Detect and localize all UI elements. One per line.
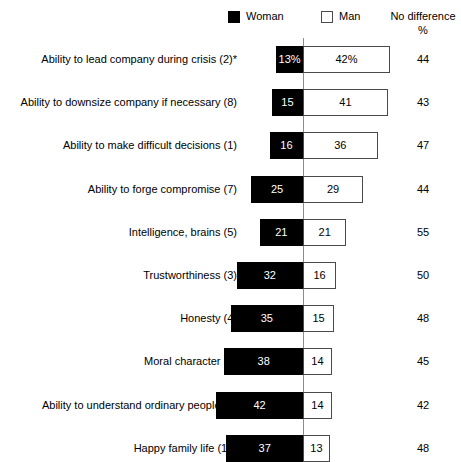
bar-value-woman: 21 bbox=[275, 226, 287, 239]
bar-value-woman: 37 bbox=[259, 442, 271, 455]
bar-value-man: 15 bbox=[312, 312, 324, 325]
bar-woman: 37 bbox=[226, 435, 303, 462]
bar-woman: 38 bbox=[224, 348, 303, 375]
no-difference-value: 55 bbox=[385, 219, 461, 246]
chart-row: Trustworthiness (3)321650 bbox=[0, 262, 461, 289]
no-difference-value: 42 bbox=[385, 392, 461, 419]
bar-woman: 15 bbox=[272, 89, 303, 116]
no-difference-value: 48 bbox=[385, 435, 461, 462]
bar-value-man: 36 bbox=[334, 139, 346, 152]
bar-value-woman: 42 bbox=[253, 399, 265, 412]
bar-woman: 42 bbox=[216, 392, 303, 419]
no-difference-value: 45 bbox=[385, 348, 461, 375]
no-difference-value: 44 bbox=[385, 176, 461, 203]
bar-man: 14 bbox=[303, 348, 332, 375]
bar-value-man: 16 bbox=[313, 269, 325, 282]
row-category-label: Happy family life (10) bbox=[0, 435, 237, 462]
chart-row: Happy family life (10)371348 bbox=[0, 435, 461, 462]
bar-man: 13 bbox=[303, 435, 330, 462]
bar-value-woman: 32 bbox=[264, 269, 276, 282]
bar-woman: 16 bbox=[270, 132, 303, 159]
row-category-label: Moral character (9) bbox=[0, 348, 237, 375]
bar-man: 21 bbox=[303, 219, 346, 246]
bar-value-man: 14 bbox=[311, 399, 323, 412]
row-category-label: Ability to forge compromise (7) bbox=[0, 176, 237, 203]
chart-row: Ability to forge compromise (7)252944 bbox=[0, 176, 461, 203]
bar-man: 14 bbox=[303, 392, 332, 419]
chart-row: Intelligence, brains (5)212155 bbox=[0, 219, 461, 246]
bar-woman: 32 bbox=[237, 262, 303, 289]
row-category-label: Ability to lead company during crisis (2… bbox=[0, 46, 237, 73]
bar-value-woman: 13% bbox=[279, 53, 301, 66]
chart-row: Ability to lead company during crisis (2… bbox=[0, 46, 461, 73]
bar-man: 36 bbox=[303, 132, 378, 159]
chart-row: Ability to understand ordinary people (6… bbox=[0, 392, 461, 419]
no-difference-value: 47 bbox=[385, 132, 461, 159]
bar-value-man: 42% bbox=[335, 53, 357, 66]
bar-woman: 35 bbox=[231, 305, 303, 332]
row-category-label: Ability to understand ordinary people (6… bbox=[0, 392, 237, 419]
row-category-label: Ability to make difficult decisions (1) bbox=[0, 132, 237, 159]
no-difference-value: 48 bbox=[385, 305, 461, 332]
bar-value-woman: 35 bbox=[261, 312, 273, 325]
bar-man: 29 bbox=[303, 176, 363, 203]
chart-rows: Ability to lead company during crisis (2… bbox=[0, 0, 461, 462]
row-category-label: Honesty (4) bbox=[0, 305, 237, 332]
bar-woman: 25 bbox=[251, 176, 303, 203]
bar-woman: 13% bbox=[276, 46, 303, 73]
bar-value-man: 13 bbox=[310, 442, 322, 455]
bar-man: 42% bbox=[303, 46, 390, 73]
chart-row: Ability to make difficult decisions (1)1… bbox=[0, 132, 461, 159]
bar-value-woman: 15 bbox=[281, 96, 293, 109]
bar-value-man: 29 bbox=[327, 183, 339, 196]
bar-value-man: 14 bbox=[311, 355, 323, 368]
bar-man: 15 bbox=[303, 305, 334, 332]
no-difference-value: 50 bbox=[385, 262, 461, 289]
bar-woman: 21 bbox=[260, 219, 303, 246]
no-difference-value: 44 bbox=[385, 46, 461, 73]
bar-value-woman: 16 bbox=[280, 139, 292, 152]
bar-value-woman: 25 bbox=[271, 183, 283, 196]
row-category-label: Trustworthiness (3) bbox=[0, 262, 237, 289]
bar-man: 41 bbox=[303, 89, 388, 116]
chart-row: Ability to downsize company if necessary… bbox=[0, 89, 461, 116]
chart-row: Honesty (4)351548 bbox=[0, 305, 461, 332]
chart-row: Moral character (9)381445 bbox=[0, 348, 461, 375]
bar-value-man: 41 bbox=[339, 96, 351, 109]
bar-man: 16 bbox=[303, 262, 336, 289]
bar-value-man: 21 bbox=[319, 226, 331, 239]
row-category-label: Ability to downsize company if necessary… bbox=[0, 89, 237, 116]
bar-value-woman: 38 bbox=[258, 355, 270, 368]
no-difference-value: 43 bbox=[385, 89, 461, 116]
row-category-label: Intelligence, brains (5) bbox=[0, 219, 237, 246]
chart-container: Woman Man No difference % Ability to lea… bbox=[0, 0, 461, 462]
